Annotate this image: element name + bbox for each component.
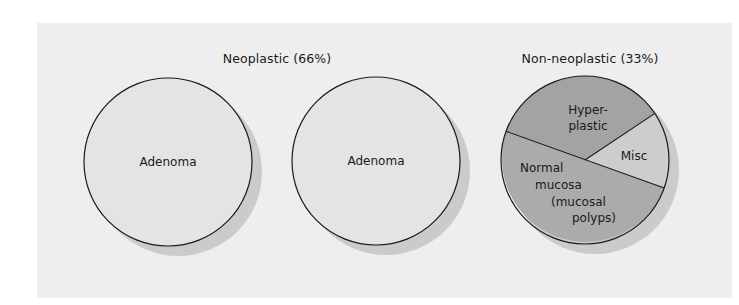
pie-adenoma-1: Adenoma [84,78,262,256]
label-normal-line2: mucosa [535,178,582,192]
label-adenoma: Adenoma [348,154,405,168]
pie-charts: Adenoma Adenoma Hyper- plastic Misc Norm… [0,0,739,305]
label-normal-line4: polyps) [572,211,616,225]
label-normal-line1: Normal [520,161,563,175]
label-adenoma: Adenoma [140,155,197,169]
label-misc: Misc [621,149,648,163]
label-hyperplastic-line1: Hyper- [568,103,608,117]
label-hyperplastic-line2: plastic [568,119,607,133]
pie-non-neoplastic: Hyper- plastic Misc Normal mucosa (mucos… [501,76,679,254]
label-normal-line3: (mucosal [551,195,606,209]
pie-adenoma-2: Adenoma [292,77,470,255]
